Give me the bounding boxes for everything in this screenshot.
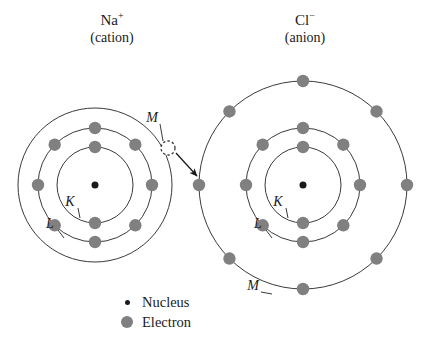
electron-l-7-chloride-anion — [240, 179, 252, 191]
electron-m-6-chloride-anion — [223, 252, 235, 264]
nucleus-dot-icon — [118, 300, 136, 305]
electron-k-1-chloride-anion — [297, 141, 309, 153]
electron-l-2-sodium-cation — [129, 138, 141, 150]
legend: Nucleus Electron — [118, 292, 268, 332]
electron-m-2-chloride-anion — [370, 105, 382, 117]
nucleus-chloride-anion — [300, 182, 307, 189]
shell-label-l-sodium-cation: L — [45, 216, 54, 231]
shell-leader-m-sodium-cation — [160, 124, 163, 141]
electron-m-5-chloride-anion — [297, 283, 309, 295]
electron-l-3-chloride-anion — [354, 179, 366, 191]
legend-item-electron: Electron — [118, 312, 268, 332]
electron-l-2-chloride-anion — [337, 138, 349, 150]
shell-label-m-chloride-anion: M — [246, 278, 260, 293]
electron-l-5-sodium-cation — [89, 236, 101, 248]
electron-m-3-chloride-anion — [401, 179, 413, 191]
electron-l-8-sodium-cation — [48, 138, 60, 150]
electron-m-4-chloride-anion — [370, 252, 382, 264]
electron-l-4-chloride-anion — [337, 219, 349, 231]
electron-m-8-chloride-anion — [223, 105, 235, 117]
electron-l-8-chloride-anion — [256, 138, 268, 150]
shell-leader-k-chloride-anion — [286, 208, 288, 218]
shell-label-l-chloride-anion: L — [253, 216, 262, 231]
shell-label-m-sodium-cation: M — [145, 110, 159, 125]
electron-l-3-sodium-cation — [146, 179, 158, 191]
electron-l-7-sodium-cation — [32, 179, 44, 191]
legend-label-electron: Electron — [136, 314, 191, 331]
electron-k-2-chloride-anion — [297, 217, 309, 229]
electron-l-1-sodium-cation — [89, 122, 101, 134]
electron-m-7-chloride-anion — [193, 179, 205, 191]
shell-label-k-sodium-cation: K — [64, 194, 75, 209]
nucleus-sodium-cation — [92, 182, 99, 189]
electron-k-2-sodium-cation — [89, 217, 101, 229]
electron-l-5-chloride-anion — [297, 236, 309, 248]
electron-dot-icon — [118, 316, 136, 328]
ion-group-chloride-anion: KLM — [193, 75, 413, 295]
legend-item-nucleus: Nucleus — [118, 292, 268, 312]
diagram-canvas: Na+ (cation) Cl− (anion) KLMKLM Nucleus … — [0, 0, 441, 347]
shell-label-k-chloride-anion: K — [272, 194, 283, 209]
shell-leader-k-sodium-cation — [78, 208, 80, 218]
electron-transfer-arrow — [176, 153, 197, 176]
electron-m-1-chloride-anion — [297, 75, 309, 87]
electron-l-1-chloride-anion — [297, 122, 309, 134]
ion-group-sodium-cation: KLM — [18, 108, 175, 262]
electron-vacancy-sodium-cation — [161, 141, 175, 155]
electron-l-4-sodium-cation — [129, 219, 141, 231]
legend-label-nucleus: Nucleus — [136, 294, 190, 311]
electron-k-1-sodium-cation — [89, 141, 101, 153]
